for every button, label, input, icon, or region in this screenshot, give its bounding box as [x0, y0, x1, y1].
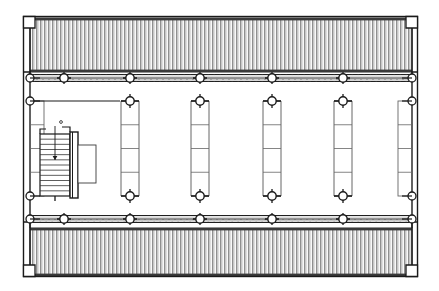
corner-step-top-right [406, 17, 418, 29]
plan-canvas [0, 0, 439, 291]
corner-step-bottom-left [24, 265, 36, 277]
stair-landing [70, 132, 78, 198]
upper-roof-panel [30, 18, 412, 72]
floor-plan-drawing: Hall / Shed Roof Framing Plan Monochrome… [0, 0, 439, 291]
lower-ridge-beam [30, 216, 412, 223]
corner-step-top-left [24, 17, 36, 29]
upper-ridge-beam [30, 75, 412, 82]
corner-step-bottom-right [406, 265, 418, 277]
stair-side-room [78, 145, 96, 183]
lower-roof-panel [30, 228, 412, 276]
